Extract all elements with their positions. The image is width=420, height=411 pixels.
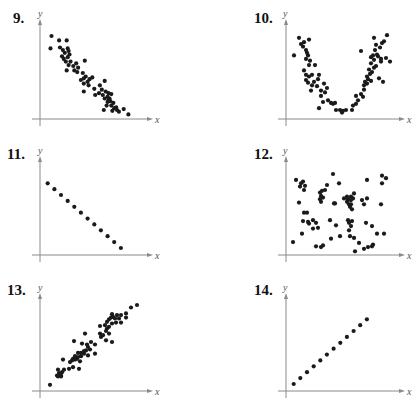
y-axis-label: y <box>37 145 43 156</box>
data-point <box>316 77 320 81</box>
data-point <box>345 335 349 339</box>
data-point <box>79 211 83 215</box>
data-point <box>46 181 50 185</box>
x-axis-arrow-icon <box>147 117 153 121</box>
data-point <box>353 249 357 253</box>
data-point <box>49 34 53 38</box>
data-point <box>57 38 61 42</box>
data-point <box>340 111 344 115</box>
data-point <box>312 80 316 84</box>
data-point <box>105 104 109 108</box>
data-point <box>375 232 379 236</box>
data-point <box>109 92 113 96</box>
scatter-panel-11: 11. xy <box>0 137 210 274</box>
data-point <box>67 49 71 53</box>
data-point <box>98 324 102 328</box>
data-point <box>388 60 392 64</box>
data-point <box>86 353 90 357</box>
data-point <box>325 86 329 90</box>
data-point <box>76 66 80 70</box>
data-point <box>65 68 69 72</box>
data-point <box>124 316 128 320</box>
data-point <box>360 198 364 202</box>
data-point <box>344 108 348 112</box>
data-point <box>348 205 352 209</box>
data-point <box>333 201 337 205</box>
data-point <box>377 76 381 80</box>
data-point <box>82 349 86 353</box>
data-point <box>119 321 123 325</box>
data-point <box>373 48 377 52</box>
data-point <box>129 305 133 309</box>
data-point <box>106 98 110 102</box>
data-point <box>352 191 356 195</box>
x-axis-label: x <box>154 386 160 397</box>
data-point <box>365 317 369 321</box>
data-point <box>107 325 111 329</box>
data-point <box>298 376 302 380</box>
data-point <box>306 81 310 85</box>
data-point <box>362 88 366 92</box>
data-point <box>346 197 350 201</box>
data-point <box>367 67 371 71</box>
data-point <box>317 106 321 110</box>
data-point <box>117 110 121 114</box>
data-point <box>381 80 385 84</box>
data-point <box>361 95 365 99</box>
y-axis-arrow-icon <box>284 19 288 25</box>
data-point <box>323 90 327 94</box>
data-point <box>292 382 296 386</box>
data-point <box>65 38 69 42</box>
data-point <box>78 359 82 363</box>
data-point <box>332 347 336 351</box>
data-point <box>362 202 366 206</box>
data-point <box>301 219 305 223</box>
data-point <box>338 341 342 345</box>
data-point <box>319 200 323 204</box>
data-point <box>365 178 369 182</box>
data-point <box>122 107 126 111</box>
data-point <box>333 101 337 105</box>
y-axis-arrow-icon <box>38 156 42 162</box>
data-point <box>56 368 60 372</box>
data-point <box>379 202 383 206</box>
x-axis-label: x <box>154 114 160 125</box>
data-point <box>61 358 65 362</box>
data-point <box>311 227 315 231</box>
data-point <box>372 36 376 40</box>
data-point <box>321 100 325 104</box>
data-point <box>358 323 362 327</box>
data-point <box>101 333 105 337</box>
data-point <box>302 40 306 44</box>
data-point <box>329 237 333 241</box>
data-point <box>348 234 352 238</box>
data-point <box>325 353 329 357</box>
y-axis-label: y <box>37 282 43 293</box>
data-point <box>303 184 307 188</box>
x-axis-label: x <box>406 250 412 261</box>
data-point <box>354 94 358 98</box>
data-point <box>97 91 101 95</box>
data-point <box>93 342 97 346</box>
data-point <box>319 89 323 93</box>
data-point <box>371 243 375 247</box>
data-point <box>104 338 108 342</box>
data-point <box>67 63 71 67</box>
data-point <box>382 232 386 236</box>
y-axis-label: y <box>282 145 288 156</box>
data-point <box>307 38 311 42</box>
data-point <box>90 75 94 79</box>
y-axis-label: y <box>282 282 288 293</box>
data-point <box>89 340 93 344</box>
data-point <box>374 64 378 68</box>
data-point <box>318 358 322 362</box>
data-point <box>63 51 67 55</box>
data-point <box>103 96 107 100</box>
data-point <box>112 240 116 244</box>
data-point <box>350 219 354 223</box>
scatter-plot-10: xy <box>210 0 420 137</box>
scatter-plot-12: xy <box>210 137 420 274</box>
y-axis-arrow-icon <box>284 293 288 299</box>
y-axis-arrow-icon <box>38 19 42 25</box>
data-point <box>88 347 92 351</box>
